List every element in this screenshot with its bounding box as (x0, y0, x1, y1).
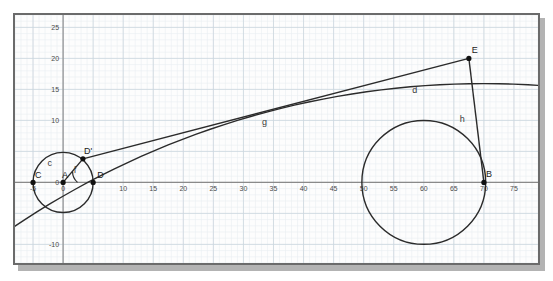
point-label-C: C (35, 170, 42, 180)
x-tick-65: 65 (450, 185, 458, 192)
x-tick-0: 0 (61, 185, 65, 192)
screenshot-canvas: -501015202530354045505560657075 25201510… (0, 0, 553, 281)
y-tick-20: 20 (51, 55, 59, 62)
geometry-figure-frame: -501015202530354045505560657075 25201510… (13, 13, 540, 265)
x-tick-15: 15 (149, 185, 157, 192)
curve-label-g: g (262, 117, 267, 127)
x-tick-25: 25 (209, 185, 217, 192)
point-D[interactable] (91, 180, 96, 185)
y-tick-25: 25 (51, 24, 59, 31)
y-tick-0: 0 (55, 179, 59, 186)
point-E[interactable] (466, 56, 471, 61)
x-tick-75: 75 (510, 185, 518, 192)
y-tick--10: -10 (49, 241, 59, 248)
point-label-A: A (62, 170, 68, 180)
point-label-B: B (486, 169, 492, 179)
point-label-D: D (97, 170, 104, 180)
curve-labels: cdghf (48, 85, 465, 175)
x-tick-60: 60 (420, 185, 428, 192)
y-tick-10: 10 (51, 117, 59, 124)
point-label-E: E (472, 45, 478, 55)
curve-label-c: c (48, 158, 53, 168)
point-A[interactable] (60, 180, 65, 185)
x-tick-50: 50 (360, 185, 368, 192)
segment-g[interactable] (83, 58, 469, 158)
point-B[interactable] (481, 180, 486, 185)
point-label-D-prime: D' (84, 146, 92, 156)
y-axis-tick-labels: 252015100-10 (49, 24, 59, 248)
x-tick-30: 30 (240, 185, 248, 192)
y-tick-15: 15 (51, 86, 59, 93)
curve-label-h: h (460, 114, 465, 124)
point-C[interactable] (30, 180, 35, 185)
x-tick-10: 10 (119, 185, 127, 192)
x-tick-35: 35 (270, 185, 278, 192)
point-D-prime[interactable] (80, 156, 85, 161)
x-tick-55: 55 (390, 185, 398, 192)
x-tick-45: 45 (330, 185, 338, 192)
x-tick-40: 40 (300, 185, 308, 192)
x-tick-70: 70 (480, 185, 488, 192)
curve-label-d: d (412, 85, 417, 95)
geometry-plot: -501015202530354045505560657075 25201510… (15, 15, 538, 263)
x-tick-20: 20 (179, 185, 187, 192)
